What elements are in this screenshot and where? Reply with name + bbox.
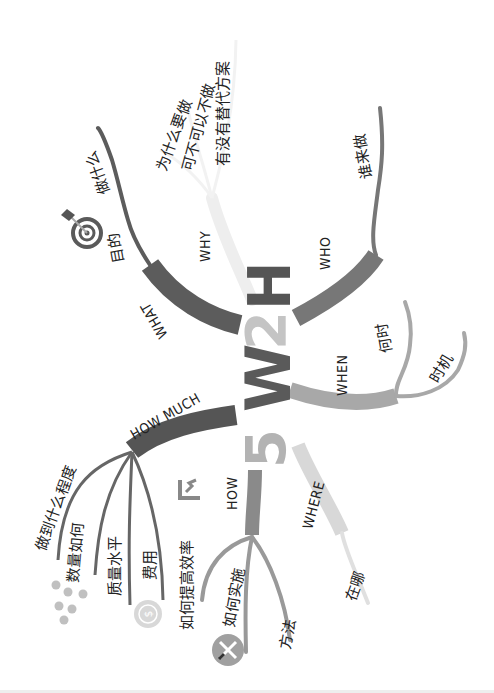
branch-label-why: WHY xyxy=(197,231,213,262)
branch-label-when: WHEN xyxy=(334,355,350,396)
who-item-1: 谁来做 xyxy=(350,133,376,180)
dots-icon xyxy=(52,581,88,625)
branch-how: HOW 如何提高效率 如何实施 方法 xyxy=(178,470,299,666)
how-much-item-cost: 费用 xyxy=(141,550,159,580)
branch-label-how: HOW xyxy=(224,477,240,510)
branch-label-what: WHAT xyxy=(137,300,170,342)
what-item-goal: 目的 xyxy=(105,232,128,265)
why-item-3: 有没有替代方案 xyxy=(214,61,232,166)
title-h: H xyxy=(236,261,304,310)
branch-where: WHERE 在哪 xyxy=(298,445,369,603)
how-much-item-quantity: 数量如何 xyxy=(64,522,87,583)
dollar-symbol: $ xyxy=(142,611,155,618)
title-5: 5 xyxy=(233,429,298,468)
dollar-coin-icon: $ xyxy=(134,600,162,628)
branch-how-much: HOW MUCH 做到什么程度 数量如何 质量水平 费用 $ xyxy=(32,390,236,628)
center-title: 5 W 2 H xyxy=(232,261,305,468)
efficiency-icon xyxy=(180,480,200,498)
how-item-method: 方法 xyxy=(276,618,299,651)
mind-map-5w2h: WHY 为什么要做 可不可以不做 有没有替代方案 WHAT 目的 做什么 WHO… xyxy=(0,0,494,693)
mind-map-svg: WHY 为什么要做 可不可以不做 有没有替代方案 WHAT 目的 做什么 WHO… xyxy=(0,0,494,693)
title-w: W xyxy=(232,344,305,412)
how-much-item-quality: 质量水平 xyxy=(106,536,124,596)
title-2: 2 xyxy=(233,311,298,350)
when-item-1: 何时 xyxy=(373,322,396,355)
how-item-efficiency: 如何提高效率 xyxy=(178,540,196,630)
branch-who: WHO 谁来做 xyxy=(296,108,382,318)
target-icon xyxy=(61,209,101,247)
branch-why: WHY 为什么要做 可不可以不做 有没有替代方案 xyxy=(153,40,252,300)
tools-icon xyxy=(212,634,244,666)
branch-label-who: WHO xyxy=(317,237,333,270)
when-item-2: 时机 xyxy=(426,351,457,386)
